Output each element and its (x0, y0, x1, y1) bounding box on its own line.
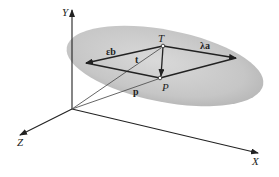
point-p-marker (158, 76, 162, 80)
lambda-a-label: λa (200, 40, 210, 51)
x-axis (72, 109, 258, 153)
z-axis (20, 109, 72, 135)
point-t-label: T (158, 32, 165, 44)
y-axis-label: Y (62, 6, 70, 18)
p-label: p (133, 86, 139, 97)
x-axis-label: X (251, 155, 260, 167)
z-axis-label: Z (17, 136, 24, 148)
eps-b-label: εb (106, 46, 116, 57)
point-t-marker (161, 44, 165, 48)
point-p-label: P (161, 81, 169, 93)
diagram-canvas: Y Z X T P εb λa t p (0, 0, 279, 177)
plane-ellipse (60, 12, 270, 121)
